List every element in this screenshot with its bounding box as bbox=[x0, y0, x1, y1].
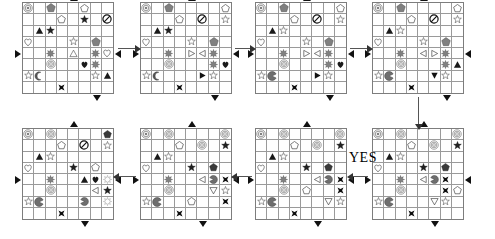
cell-7-4[interactable] bbox=[301, 82, 312, 93]
cell-2-7[interactable] bbox=[220, 26, 231, 37]
cell-2-5[interactable] bbox=[429, 26, 440, 37]
cell-6-6[interactable] bbox=[91, 197, 102, 208]
cell-4-4-arrow-left-icon[interactable] bbox=[418, 48, 429, 59]
cell-1-3-pentagon-outline-icon[interactable] bbox=[175, 140, 186, 151]
cell-5-6-burst-icon[interactable] bbox=[91, 59, 102, 70]
cell-3-3[interactable] bbox=[407, 163, 418, 174]
cell-3-7[interactable] bbox=[220, 37, 231, 48]
cell-5-0[interactable] bbox=[373, 185, 384, 196]
cell-4-7-burst-dark-icon[interactable] bbox=[335, 174, 346, 185]
cell-6-0-star-outline-icon[interactable] bbox=[256, 71, 267, 82]
cell-0-0-spiral-icon[interactable] bbox=[256, 129, 267, 140]
cell-5-0[interactable] bbox=[256, 185, 267, 196]
cell-1-7-star-outline-icon[interactable] bbox=[452, 14, 463, 25]
cell-7-2[interactable] bbox=[164, 82, 175, 93]
cell-1-4[interactable] bbox=[186, 140, 197, 151]
cell-6-0-star-outline-icon[interactable] bbox=[256, 197, 267, 208]
cell-1-1[interactable] bbox=[152, 14, 163, 25]
cell-7-7[interactable] bbox=[335, 208, 346, 219]
cell-7-4[interactable] bbox=[301, 208, 312, 219]
cell-2-1-triangle-solid-icon[interactable] bbox=[152, 26, 163, 37]
cell-4-7[interactable] bbox=[452, 48, 463, 59]
cell-4-0[interactable] bbox=[256, 174, 267, 185]
cell-3-6-pentagon-gray-icon[interactable] bbox=[324, 37, 335, 48]
cell-2-1-triangle-solid-icon[interactable] bbox=[267, 152, 278, 163]
cell-3-1[interactable] bbox=[384, 163, 395, 174]
cell-2-5[interactable] bbox=[312, 152, 323, 163]
cell-6-6-star-outline-icon[interactable] bbox=[209, 71, 220, 82]
cell-4-1[interactable] bbox=[152, 48, 163, 59]
cell-3-0-heart-outline-icon[interactable] bbox=[23, 163, 34, 174]
cell-3-7[interactable] bbox=[452, 163, 463, 174]
cell-2-7[interactable] bbox=[452, 26, 463, 37]
cell-0-6[interactable] bbox=[324, 3, 335, 14]
cell-1-3-pentagon-outline-icon[interactable] bbox=[407, 14, 418, 25]
cell-4-3[interactable] bbox=[57, 174, 68, 185]
cell-5-1[interactable] bbox=[384, 185, 395, 196]
cell-4-4-arrow-right-icon[interactable] bbox=[186, 48, 197, 59]
cell-6-2[interactable] bbox=[46, 197, 57, 208]
cell-6-7[interactable] bbox=[452, 71, 463, 82]
cell-1-7-star-solid-icon[interactable] bbox=[335, 140, 346, 151]
cell-0-2-pentagon-gray-icon[interactable] bbox=[396, 3, 407, 14]
cell-7-2[interactable] bbox=[396, 208, 407, 219]
cell-4-6-burst-dark-icon[interactable] bbox=[441, 174, 452, 185]
cell-7-2[interactable] bbox=[396, 82, 407, 93]
cell-3-5[interactable] bbox=[197, 163, 208, 174]
cell-7-0[interactable] bbox=[256, 82, 267, 93]
cell-4-3[interactable] bbox=[290, 48, 301, 59]
cell-7-1[interactable] bbox=[34, 82, 45, 93]
cell-4-6-pac-right-icon[interactable] bbox=[209, 174, 220, 185]
cell-2-2-star-outline-icon[interactable] bbox=[164, 152, 175, 163]
cell-1-0[interactable] bbox=[141, 14, 152, 25]
cell-0-5[interactable] bbox=[197, 129, 208, 140]
cell-6-4[interactable] bbox=[68, 71, 79, 82]
cell-5-4[interactable] bbox=[186, 59, 197, 70]
cell-4-4[interactable] bbox=[186, 174, 197, 185]
cell-1-5-no-entry-icon[interactable] bbox=[79, 140, 90, 151]
cell-7-0[interactable] bbox=[23, 208, 34, 219]
cell-5-7-pentagon-outline-icon[interactable] bbox=[452, 185, 463, 196]
cell-3-3[interactable] bbox=[175, 37, 186, 48]
cell-6-1-pac-icon[interactable] bbox=[34, 197, 45, 208]
cell-2-3[interactable] bbox=[290, 26, 301, 37]
cell-5-1[interactable] bbox=[384, 59, 395, 70]
cell-5-7-star-outline-icon[interactable] bbox=[220, 185, 231, 196]
cell-2-0[interactable] bbox=[141, 152, 152, 163]
cell-3-5[interactable] bbox=[79, 37, 90, 48]
cell-3-6-pentagon-gray-icon[interactable] bbox=[91, 37, 102, 48]
cell-5-2-flower-icon[interactable] bbox=[46, 185, 57, 196]
cell-0-2-pentagon-gray-icon[interactable] bbox=[164, 3, 175, 14]
cell-3-5[interactable] bbox=[312, 163, 323, 174]
cell-0-3[interactable] bbox=[407, 129, 418, 140]
cell-3-1[interactable] bbox=[152, 163, 163, 174]
cell-2-0[interactable] bbox=[373, 26, 384, 37]
cell-6-2[interactable] bbox=[279, 71, 290, 82]
cell-2-3[interactable] bbox=[175, 152, 186, 163]
cell-0-0-spiral-icon[interactable] bbox=[373, 129, 384, 140]
cell-1-7-star-outline-icon[interactable] bbox=[335, 14, 346, 25]
cell-6-1-moon-icon[interactable] bbox=[34, 71, 45, 82]
cell-5-7-burst-dark-icon[interactable] bbox=[335, 185, 346, 196]
cell-5-0[interactable] bbox=[141, 59, 152, 70]
cell-4-5[interactable] bbox=[79, 48, 90, 59]
cell-1-6[interactable] bbox=[91, 14, 102, 25]
cell-4-1[interactable] bbox=[384, 174, 395, 185]
cell-6-3[interactable] bbox=[57, 197, 68, 208]
cell-3-1[interactable] bbox=[34, 163, 45, 174]
cell-6-6-triangle-down-icon[interactable] bbox=[324, 197, 335, 208]
cell-7-2[interactable] bbox=[46, 208, 57, 219]
cell-7-1[interactable] bbox=[267, 82, 278, 93]
cell-3-7[interactable] bbox=[452, 37, 463, 48]
cell-5-2-flower-icon[interactable] bbox=[46, 59, 57, 70]
cell-4-5-arrow-left-icon[interactable] bbox=[312, 174, 323, 185]
cell-3-7[interactable] bbox=[220, 163, 231, 174]
cell-0-7-flower-icon[interactable] bbox=[220, 129, 231, 140]
cell-0-2-flower-icon[interactable] bbox=[164, 129, 175, 140]
cell-2-3[interactable] bbox=[57, 26, 68, 37]
cell-2-7[interactable] bbox=[335, 26, 346, 37]
cell-1-0[interactable] bbox=[23, 14, 34, 25]
cell-0-1[interactable] bbox=[384, 129, 395, 140]
cell-2-5[interactable] bbox=[79, 26, 90, 37]
cell-4-6-burst-icon[interactable] bbox=[441, 48, 452, 59]
